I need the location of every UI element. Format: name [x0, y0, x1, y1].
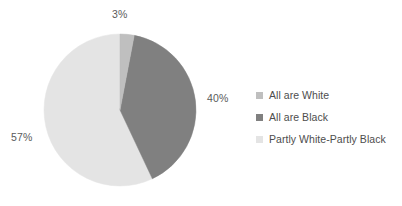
- pie-chart-figure: 3% 40% 57% All are White All are Black P…: [0, 0, 402, 206]
- data-label-all-are-black: 40%: [207, 92, 228, 104]
- data-label-partly-white-partly-black: 57%: [11, 131, 32, 143]
- legend-item-all-are-black[interactable]: All are Black: [256, 106, 402, 128]
- pie-plot-area: 3% 40% 57%: [0, 0, 250, 206]
- legend-label-partly-white-partly-black: Partly White-Partly Black: [269, 133, 386, 145]
- chart-legend: All are White All are Black Partly White…: [256, 84, 402, 150]
- legend-label-all-are-black: All are Black: [269, 111, 328, 123]
- legend-swatch-icon: [256, 136, 263, 143]
- legend-item-partly-white-partly-black[interactable]: Partly White-Partly Black: [256, 128, 402, 150]
- legend-swatch-icon: [256, 92, 263, 99]
- legend-swatch-icon: [256, 114, 263, 121]
- legend-item-all-are-white[interactable]: All are White: [256, 84, 402, 106]
- legend-label-all-are-white: All are White: [269, 89, 329, 101]
- data-label-all-are-white: 3%: [112, 8, 127, 20]
